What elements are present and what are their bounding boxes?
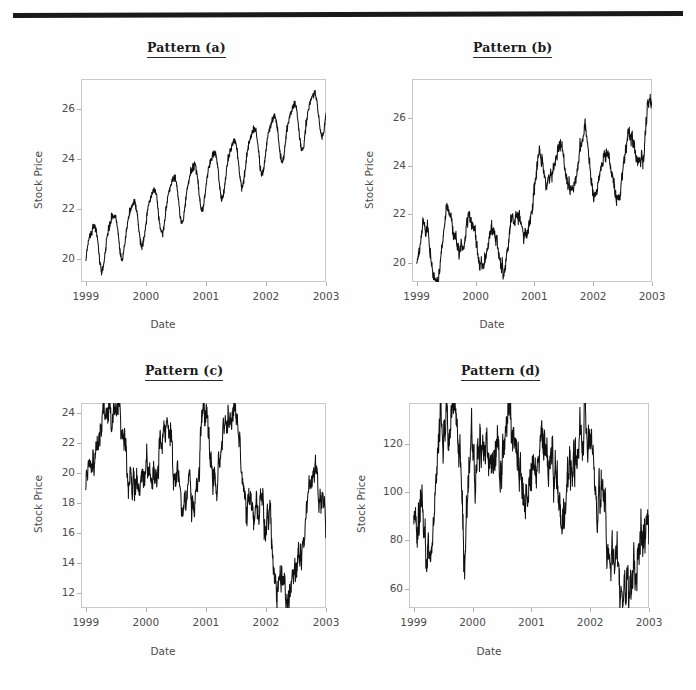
panel-d-title: Pattern (d) <box>461 363 540 381</box>
y-tick-label: 24 <box>372 159 406 171</box>
x-tick-label: 2003 <box>627 616 671 628</box>
x-tick-label: 2000 <box>451 616 495 628</box>
x-tick-mark <box>652 282 653 286</box>
panel-b-xlabel: Date <box>462 318 522 330</box>
x-tick-mark <box>146 282 147 286</box>
x-tick-label: 2000 <box>124 290 168 302</box>
x-tick-mark <box>206 282 207 286</box>
y-tick-label: 120 <box>369 437 403 449</box>
panel-pattern-b: Pattern (b) Stock Price Date 20222426199… <box>348 0 696 345</box>
x-tick-label: 1999 <box>64 290 108 302</box>
x-tick-label: 2003 <box>304 616 348 628</box>
panel-b-ylabel: Stock Price <box>363 145 375 215</box>
y-tick-label: 26 <box>41 102 75 114</box>
y-tick-label: 26 <box>372 111 406 123</box>
x-tick-mark <box>86 608 87 612</box>
panel-c-title: Pattern (c) <box>145 363 223 381</box>
y-tick-mark <box>77 413 81 414</box>
y-tick-label: 24 <box>41 406 75 418</box>
x-tick-label: 2001 <box>509 616 553 628</box>
x-tick-label: 2001 <box>512 290 556 302</box>
y-tick-mark <box>77 533 81 534</box>
y-tick-mark <box>77 473 81 474</box>
y-tick-mark <box>408 263 412 264</box>
panel-d-series <box>409 403 649 608</box>
x-tick-mark <box>266 608 267 612</box>
x-tick-mark <box>476 282 477 286</box>
y-tick-mark <box>408 214 412 215</box>
x-tick-label: 1999 <box>392 616 436 628</box>
y-tick-label: 80 <box>369 533 403 545</box>
y-tick-mark <box>77 259 81 260</box>
x-tick-mark <box>206 608 207 612</box>
series-line <box>86 90 326 275</box>
series-line <box>417 94 652 287</box>
panel-c-xlabel: Date <box>133 645 193 657</box>
y-tick-label: 22 <box>372 207 406 219</box>
panel-c-series <box>81 403 326 608</box>
y-tick-label: 24 <box>41 152 75 164</box>
panel-pattern-c: Pattern (c) Stock Price Date 12141618202… <box>0 345 348 690</box>
panel-d-xlabel: Date <box>459 645 519 657</box>
panel-b-series <box>412 79 652 282</box>
y-tick-mark <box>405 589 409 590</box>
y-tick-mark <box>77 593 81 594</box>
figure-page: Pattern (a) Stock Price Date 20222426199… <box>0 0 696 690</box>
panel-a-title: Pattern (a) <box>147 40 226 58</box>
x-tick-label: 2002 <box>571 290 615 302</box>
panel-d-ylabel: Stock Price <box>355 469 367 539</box>
panel-pattern-a: Pattern (a) Stock Price Date 20222426199… <box>0 0 348 345</box>
x-tick-mark <box>590 608 591 612</box>
y-tick-mark <box>77 159 81 160</box>
x-tick-label: 2000 <box>124 616 168 628</box>
x-tick-mark <box>146 608 147 612</box>
x-tick-mark <box>473 608 474 612</box>
y-tick-mark <box>405 540 409 541</box>
panel-a-series <box>81 79 326 282</box>
y-tick-mark <box>77 443 81 444</box>
x-tick-mark <box>593 282 594 286</box>
x-tick-label: 2001 <box>184 290 228 302</box>
panel-pattern-d: Pattern (d) Stock Price Date 60801001201… <box>348 345 696 690</box>
y-tick-label: 20 <box>372 256 406 268</box>
x-tick-label: 2003 <box>630 290 674 302</box>
x-tick-mark <box>649 608 650 612</box>
y-tick-label: 12 <box>41 586 75 598</box>
y-tick-label: 100 <box>369 485 403 497</box>
x-tick-mark <box>86 282 87 286</box>
x-tick-label: 2000 <box>454 290 498 302</box>
x-tick-mark <box>534 282 535 286</box>
x-tick-mark <box>417 282 418 286</box>
y-tick-label: 60 <box>369 582 403 594</box>
y-tick-mark <box>408 118 412 119</box>
panel-a-xlabel: Date <box>133 318 193 330</box>
x-tick-label: 2002 <box>244 616 288 628</box>
y-tick-label: 22 <box>41 436 75 448</box>
y-tick-label: 20 <box>41 252 75 264</box>
y-tick-label: 20 <box>41 466 75 478</box>
x-tick-mark <box>326 608 327 612</box>
y-tick-label: 22 <box>41 202 75 214</box>
y-tick-mark <box>77 109 81 110</box>
x-tick-label: 2001 <box>184 616 228 628</box>
series-line <box>86 395 326 611</box>
x-tick-mark <box>531 608 532 612</box>
panel-b-title: Pattern (b) <box>473 40 552 58</box>
y-tick-label: 18 <box>41 496 75 508</box>
y-tick-mark <box>405 492 409 493</box>
y-tick-mark <box>77 563 81 564</box>
y-tick-label: 14 <box>41 556 75 568</box>
x-tick-mark <box>326 282 327 286</box>
x-tick-label: 1999 <box>64 616 108 628</box>
series-line <box>414 384 649 608</box>
y-tick-mark <box>77 503 81 504</box>
y-tick-mark <box>405 444 409 445</box>
x-tick-label: 2003 <box>304 290 348 302</box>
x-tick-label: 2002 <box>244 290 288 302</box>
x-tick-label: 1999 <box>395 290 439 302</box>
x-tick-mark <box>266 282 267 286</box>
y-tick-mark <box>408 166 412 167</box>
x-tick-mark <box>414 608 415 612</box>
x-tick-label: 2002 <box>568 616 612 628</box>
y-tick-mark <box>77 209 81 210</box>
